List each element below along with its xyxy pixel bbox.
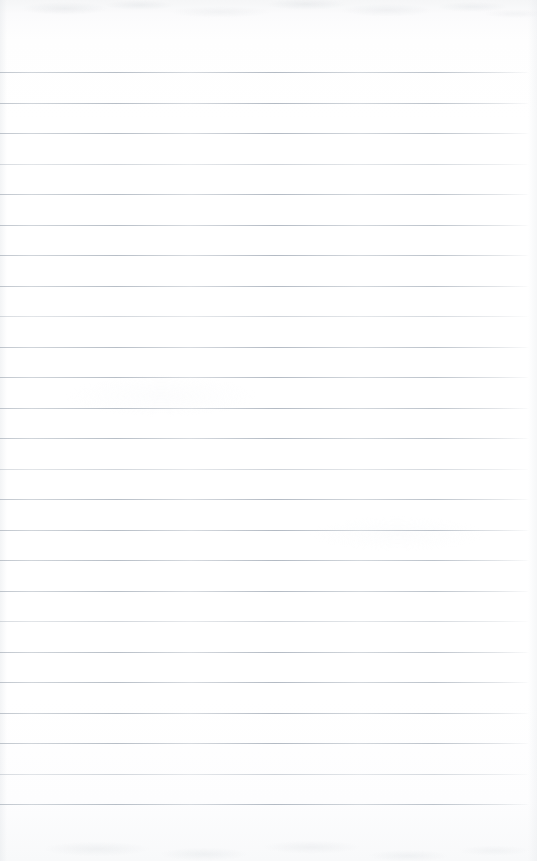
notebook-page — [0, 0, 537, 861]
writing-area[interactable] — [0, 72, 529, 822]
